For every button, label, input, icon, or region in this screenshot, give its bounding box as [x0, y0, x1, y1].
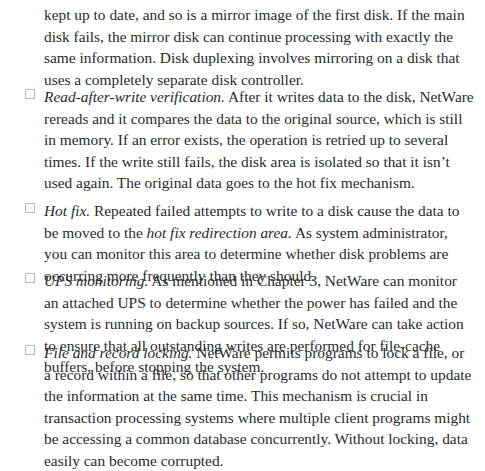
list-item-file-record-locking: File and record locking. NetWare permits…: [0, 342, 485, 471]
intro-paragraph: kept up to date, and so is a mirror imag…: [44, 4, 474, 90]
list-item-term: Read-after-write verification.: [44, 88, 225, 105]
list-item-term: File and record locking.: [44, 344, 192, 361]
list-item-read-after-write: Read-after-write verification. After it …: [0, 86, 485, 194]
checkbox-bullet-icon: [25, 273, 35, 283]
list-item-term: Hot fix.: [44, 202, 90, 219]
checkbox-bullet-icon: [25, 203, 35, 213]
list-item-emphasis: hot fix redirection area.: [147, 224, 292, 241]
list-item-text: File and record locking. NetWare permits…: [44, 342, 474, 471]
list-item-body: NetWare permits programs to lock a file,…: [44, 344, 471, 469]
list-item-text: Read-after-write verification. After it …: [44, 86, 474, 194]
checkbox-bullet-icon: [25, 345, 35, 355]
checkbox-bullet-icon: [25, 89, 35, 99]
list-item-term: UPS monitoring.: [44, 272, 148, 289]
